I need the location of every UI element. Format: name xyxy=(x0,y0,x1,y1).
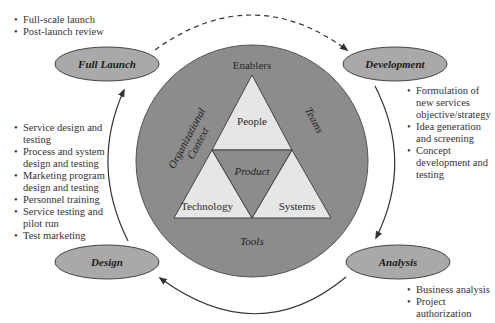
people-label: People xyxy=(237,115,267,127)
list-item: Marketing program design and testing xyxy=(14,170,110,194)
list-item: Service testing and pilot run xyxy=(14,206,110,230)
list-item: Business analysis xyxy=(407,284,495,296)
stage-full-launch-label: Full Launch xyxy=(77,58,136,70)
stage-design: Design xyxy=(55,245,159,279)
list-item: Personnel training xyxy=(14,194,110,206)
list-item: Formulation of new services objective/st… xyxy=(407,85,495,121)
enablers-label: Enablers xyxy=(233,59,271,71)
development-activities: Formulation of new services objective/st… xyxy=(407,85,495,181)
list-item: Process and system design and testing xyxy=(14,146,110,170)
list-item: Service design and testing xyxy=(14,122,110,146)
stage-full-launch: Full Launch xyxy=(55,47,159,81)
analysis-activities: Business analysis Project authorization xyxy=(407,284,495,320)
list-item: Full-scale launch xyxy=(14,14,144,26)
stage-analysis-label: Analysis xyxy=(378,256,418,268)
systems-label: Systems xyxy=(279,200,316,212)
stage-development-label: Development xyxy=(364,58,425,70)
list-item: Concept development and testing xyxy=(407,145,495,181)
design-activities: Service design and testing Process and s… xyxy=(14,122,110,242)
product-label: Product xyxy=(233,165,270,177)
list-item: Idea generation and screening xyxy=(407,121,495,145)
stage-analysis: Analysis xyxy=(346,245,450,279)
list-item: Test marketing xyxy=(14,230,110,242)
arrow-analysis-to-design xyxy=(160,277,346,314)
list-item: Project authorization xyxy=(407,296,495,320)
arrow-design-to-fulllaunch xyxy=(108,90,128,241)
full-launch-activities: Full-scale launch Post-launch review xyxy=(14,14,144,38)
tools-label: Tools xyxy=(240,235,263,247)
arrow-development-to-analysis xyxy=(375,86,395,238)
stage-development: Development xyxy=(343,47,447,81)
technology-label: Technology xyxy=(181,200,233,212)
list-item: Post-launch review xyxy=(14,26,144,38)
stage-design-label: Design xyxy=(90,256,123,268)
